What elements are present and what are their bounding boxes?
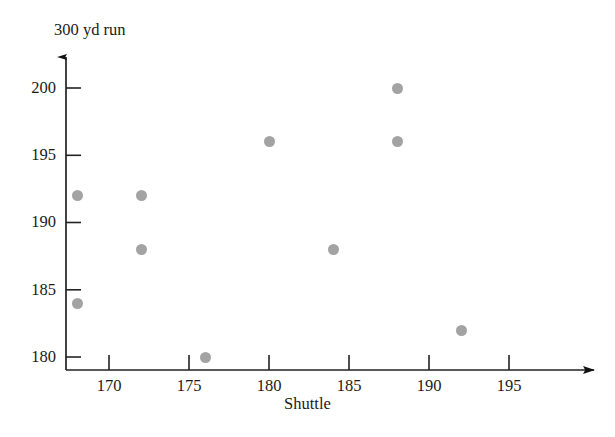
y-tick-label-195: 195 bbox=[0, 147, 56, 164]
x-tick-label-180: 180 bbox=[239, 378, 299, 395]
x-tick-label-185: 185 bbox=[319, 378, 379, 395]
x-axis-ticks bbox=[109, 355, 509, 370]
y-tick-label-185: 185 bbox=[0, 282, 56, 299]
x-tick-label-175: 175 bbox=[159, 378, 219, 395]
x-tick-label-170: 170 bbox=[79, 378, 139, 395]
y-tick-label-190: 190 bbox=[0, 214, 56, 231]
y-axis-title: 300 yd run bbox=[54, 22, 126, 39]
x-axis-title: Shuttle bbox=[0, 396, 615, 413]
y-tick-label-200: 200 bbox=[0, 80, 56, 97]
x-tick-label-190: 190 bbox=[399, 378, 459, 395]
scatter-plot-figure: 300 yd run Shuttle 200 195 190 185 180 1… bbox=[0, 0, 615, 437]
plot-axes-svg bbox=[0, 0, 615, 437]
y-tick-label-180: 180 bbox=[0, 349, 56, 366]
x-tick-label-195: 195 bbox=[479, 378, 539, 395]
y-axis-ticks bbox=[66, 88, 81, 357]
